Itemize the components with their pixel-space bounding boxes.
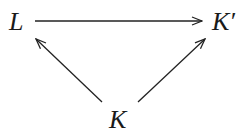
arrow-K-to-L [36, 39, 102, 102]
node-K-prime: K′ [212, 9, 235, 35]
node-L: L [9, 9, 23, 35]
node-K: K [109, 107, 126, 132]
arrow-K-to-Kprime [138, 39, 205, 102]
